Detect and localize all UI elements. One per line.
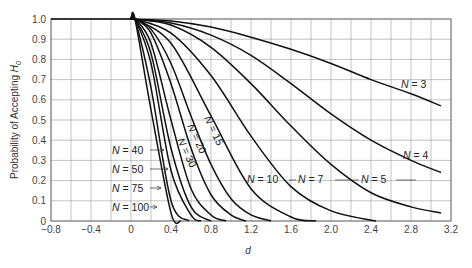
x-tick-label: 2.8 <box>404 224 418 235</box>
curve-n-4 <box>131 19 441 173</box>
svg-text:Probability of Accepting H0: Probability of Accepting H0 <box>9 61 22 179</box>
x-tick-label: −0.8 <box>41 224 61 235</box>
x-tick-label: 2.0 <box>324 224 338 235</box>
label-n-5: N = 5 <box>361 173 387 185</box>
y-tick-label: 0.1 <box>32 195 46 206</box>
x-tick-label: 3.2 <box>444 224 458 235</box>
x-tick-label: 1.2 <box>244 224 258 235</box>
curves <box>51 12 441 223</box>
oc-curve-chart: 00.10.20.30.40.50.60.70.80.91.0 −0.8−0.4… <box>0 0 472 268</box>
x-tick-label: 1.6 <box>284 224 298 235</box>
curve-n-3 <box>131 19 441 106</box>
label-n-40: N = 40 <box>112 144 143 156</box>
y-tick-label: 0.9 <box>32 34 46 45</box>
y-tick-label: 0.3 <box>32 155 46 166</box>
x-tick-label: 0.8 <box>204 224 218 235</box>
y-tick-label: 0.8 <box>32 54 46 65</box>
y-tick-label: 0.7 <box>32 74 46 85</box>
x-tick-label: −0.4 <box>81 224 101 235</box>
x-tick-label: 0 <box>128 224 134 235</box>
label-n-4: N = 4 <box>403 149 429 161</box>
y-tick-label: 0.6 <box>32 94 46 105</box>
y-axis-label-subscript: 0 <box>15 61 22 65</box>
x-axis-label: d <box>245 245 251 256</box>
y-tick-label: 0.5 <box>32 115 46 126</box>
y-tick-label: 1.0 <box>32 14 46 25</box>
label-n-75: N = 75 <box>112 182 143 194</box>
y-axis-label: Probability of Accepting H0 <box>9 61 22 179</box>
x-tick-label: 0.4 <box>164 224 178 235</box>
y-tick-label: 0.2 <box>32 175 46 186</box>
y-axis-ticks: 00.10.20.30.40.50.60.70.80.91.0 <box>32 14 46 227</box>
label-n-7: N = 7 <box>298 173 324 185</box>
label-n-100: N = 100 <box>112 201 149 213</box>
label-n-50: N = 50 <box>112 163 143 175</box>
y-tick-label: 0.4 <box>32 135 46 146</box>
x-tick-label: 2.4 <box>364 224 378 235</box>
label-n-3: N = 3 <box>401 78 427 90</box>
label-n-10: N = 10 <box>247 173 278 185</box>
y-axis-label-text: Probability of Accepting <box>9 72 20 179</box>
grid <box>51 19 451 221</box>
x-axis-ticks: −0.8−0.400.40.81.21.62.02.42.83.2 <box>41 224 458 235</box>
